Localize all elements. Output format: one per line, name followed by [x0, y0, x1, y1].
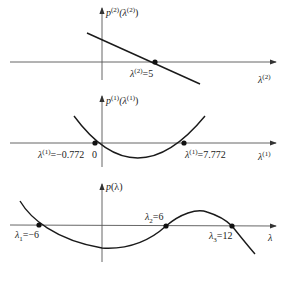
root-point — [152, 59, 157, 64]
panel-middle: p(1)(λ(1)) λ(1)=−0.772 0 λ(1)=7.772 λ(1) — [10, 94, 276, 167]
root-point-1 — [36, 222, 41, 227]
x-axis-label: λ(2) — [257, 73, 271, 85]
root-label-1: λ1=−6 — [14, 229, 39, 243]
panel-bottom: p(λ) λ1=−6 λ2=6 λ3=12 λ — [10, 181, 276, 262]
x-axis — [10, 225, 276, 226]
root-point-2 — [181, 140, 186, 145]
x-axis-label: λ — [267, 232, 273, 243]
y-axis-label: p(λ) — [105, 181, 123, 193]
x-axis-label: λ(1) — [257, 150, 271, 162]
cubic-curve — [20, 201, 255, 254]
root-point-2 — [163, 223, 168, 228]
root-label-1: λ(1)=−0.772 — [37, 148, 84, 160]
root-point-3 — [229, 223, 234, 228]
y-axis-label: p(2)(λ(2)) — [105, 6, 138, 19]
root-label-2: λ2=6 — [144, 211, 163, 225]
root-label-2: λ(1)=7.772 — [184, 148, 226, 160]
y-axis-label: p(1)(λ(1)) — [105, 94, 138, 107]
root-label: λ(2)=5 — [129, 67, 153, 79]
origin-label: 0 — [92, 149, 97, 160]
root-label-3: λ3=12 — [208, 230, 232, 244]
panel-top: p(2)(λ(2)) λ(2)=5 λ(2) — [10, 6, 276, 85]
root-point-1 — [92, 140, 97, 145]
characteristic-polynomial-diagram: p(2)(λ(2)) λ(2)=5 λ(2) p(1)(λ(1)) λ(1)=−… — [0, 0, 284, 281]
